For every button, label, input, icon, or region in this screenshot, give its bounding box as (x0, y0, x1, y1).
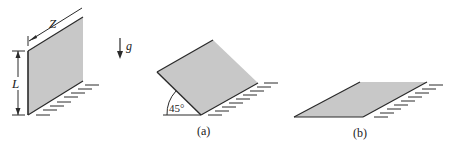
gravity-label: g (126, 39, 132, 53)
panel-a: 45° (a) (157, 40, 278, 138)
horizontal-plate (294, 82, 427, 117)
caption-b: (b) (353, 126, 367, 140)
z-label: Z (49, 16, 57, 31)
gravity-arrow-icon (117, 38, 123, 59)
panel-b: (b) (294, 82, 443, 140)
angle-label: 45° (169, 102, 184, 114)
l-label: L (11, 76, 19, 91)
vertical-plate (28, 17, 83, 115)
diagram-canvas: Z L g 45° (0, 0, 453, 148)
caption-a: (a) (197, 124, 210, 138)
vertical-plate-panel: Z L g (11, 8, 132, 115)
